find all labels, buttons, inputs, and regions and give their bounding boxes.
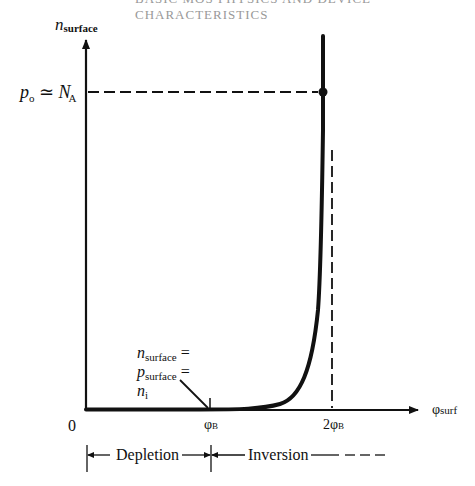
depletion-region-label: Depletion [116, 447, 179, 463]
two-phi-b-label: 2φB [323, 418, 344, 432]
chart-canvas [0, 0, 475, 486]
y-axis-label: nsurface [55, 16, 98, 33]
intersection-dot [319, 88, 328, 97]
na-level-label: po ≃ NA [20, 83, 77, 101]
intrinsic-annotation: nsurface = psurface = ni [137, 344, 190, 401]
origin-label: 0 [68, 418, 76, 434]
phi-b-label: φB [204, 418, 218, 432]
x-axis-label: φsurf [432, 403, 457, 417]
inversion-region-label: Inversion [248, 447, 308, 463]
